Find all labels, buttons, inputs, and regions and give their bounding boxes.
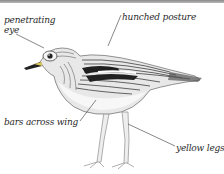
label-line-1: penetrating — [4, 15, 55, 25]
label-penetrating-eye: penetrating eye — [4, 15, 55, 35]
label-line-2: eye — [4, 25, 55, 35]
label-hunched-posture: hunched posture — [122, 12, 196, 22]
body-drawing — [24, 48, 202, 114]
legs-drawing — [84, 112, 134, 169]
bird-diagram: penetrating eye hunched posture bars acr… — [0, 0, 224, 174]
label-bars-across-wing: bars across wing — [4, 117, 78, 127]
label-yellow-legs: yellow legs — [176, 143, 224, 153]
